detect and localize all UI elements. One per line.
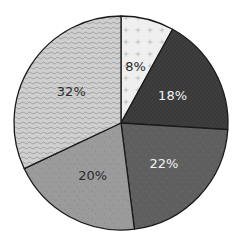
slice-label-18: 18% bbox=[158, 88, 187, 103]
slice-label-22: 22% bbox=[149, 156, 178, 171]
pie-chart: 8%18%22%20%32% bbox=[0, 0, 245, 244]
slice-label-8: 8% bbox=[125, 59, 146, 74]
slice-label-20: 20% bbox=[78, 168, 107, 183]
slice-label-32: 32% bbox=[57, 84, 86, 99]
pie-slice-22 bbox=[121, 123, 228, 229]
